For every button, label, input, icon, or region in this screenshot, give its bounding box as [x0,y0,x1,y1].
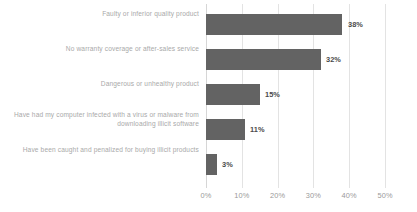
bar-row: Have been caught and penalized for buyin… [0,144,417,179]
x-tick-label: 10% [222,191,262,200]
bar-value-label: 32% [326,55,341,64]
x-tick-label: 20% [258,191,298,200]
category-label: Dangerous or unhealthy product [9,80,199,89]
x-tick-label: 30% [293,191,333,200]
bar [206,154,217,175]
bar-row: Have had my computer infected with a vir… [0,109,417,144]
category-label: No warranty coverage or after-sales serv… [9,45,199,54]
bar-chart: Faulty or inferior quality product 38% N… [0,0,417,212]
category-label: Faulty or inferior quality product [9,10,199,19]
bar [206,49,321,70]
bar [206,84,260,105]
x-axis: 0% 10% 20% 30% 40% 50% [0,188,417,212]
category-label: Have had my computer infected with a vir… [9,111,199,128]
bar-value-label: 15% [265,90,280,99]
x-tick-label: 40% [329,191,369,200]
bar-row: No warranty coverage or after-sales serv… [0,39,417,74]
bar-row: Dangerous or unhealthy product 15% [0,74,417,109]
x-tick-label: 50% [365,191,405,200]
bar [206,119,245,140]
x-tick-label: 0% [186,191,226,200]
bar-value-label: 11% [250,125,265,134]
bar-rows: Faulty or inferior quality product 38% N… [0,0,417,188]
bar-value-label: 38% [348,20,363,29]
bar-value-label: 3% [222,160,233,169]
category-label: Have been caught and penalized for buyin… [9,146,199,155]
bar [206,14,342,35]
bar-row: Faulty or inferior quality product 38% [0,4,417,39]
